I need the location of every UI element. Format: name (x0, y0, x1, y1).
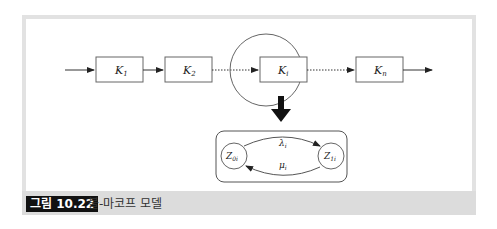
state-z1i: Z1i (318, 143, 344, 169)
block-k2: K2 (165, 57, 212, 82)
block-ki: Ki (260, 57, 307, 82)
block-k1: K1 (96, 57, 143, 82)
markov-diagram: K1 K2 Ki Kn Z0i Z1i λi μi (0, 0, 497, 229)
expand-arrow-icon (271, 96, 291, 122)
block-kn: Kn (356, 57, 403, 82)
state-z0i: Z0i (221, 143, 247, 169)
